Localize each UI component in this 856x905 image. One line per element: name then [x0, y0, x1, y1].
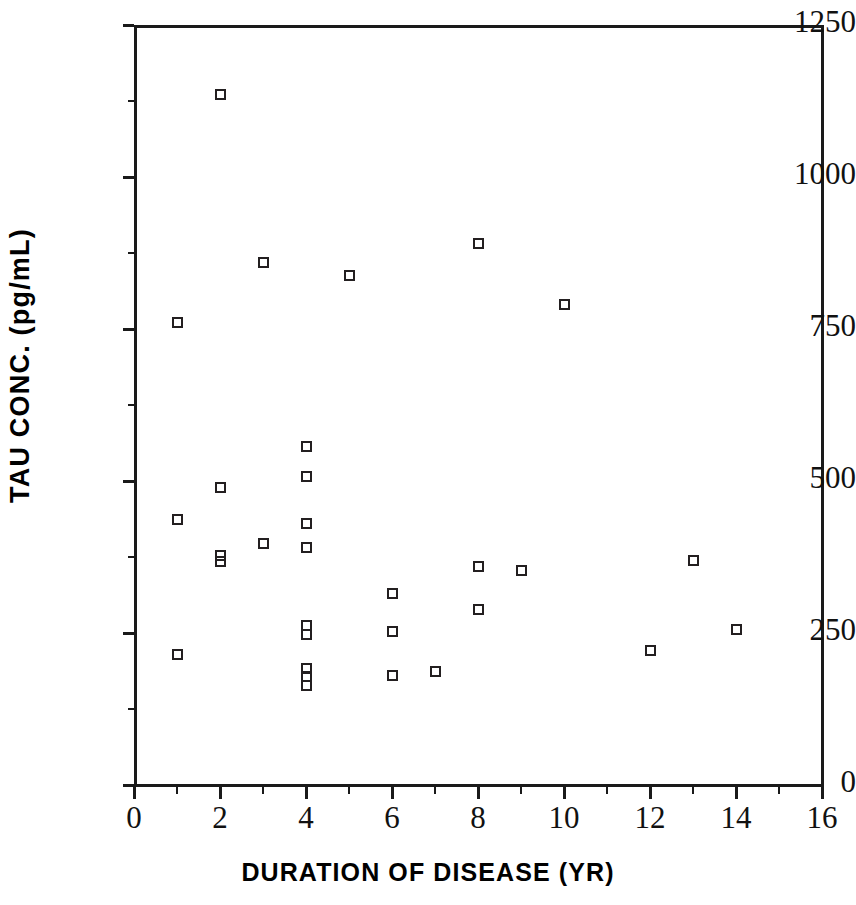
- x-tick-minor: [778, 787, 780, 794]
- y-tick-major: [123, 632, 134, 635]
- x-tick-major: [391, 787, 394, 799]
- y-axis-label: TAU CONC. (pg/mL): [5, 86, 36, 646]
- x-tick-major: [305, 787, 308, 799]
- data-point-marker: [258, 257, 269, 268]
- x-tick-label: 16: [792, 800, 852, 836]
- x-tick-major: [133, 787, 136, 799]
- plot-data-area: [134, 25, 822, 785]
- data-point-marker: [301, 680, 312, 691]
- y-tick-major: [123, 24, 134, 27]
- x-tick-minor: [348, 787, 350, 794]
- x-tick-label: 12: [620, 800, 680, 836]
- data-point-marker: [473, 561, 484, 572]
- data-point-marker: [215, 482, 226, 493]
- data-point-marker: [473, 238, 484, 249]
- data-point-marker: [301, 629, 312, 640]
- x-tick-major: [219, 787, 222, 799]
- data-point-marker: [215, 556, 226, 567]
- data-point-marker: [172, 514, 183, 525]
- data-point-marker: [645, 645, 656, 656]
- x-tick-major: [477, 787, 480, 799]
- data-point-marker: [172, 317, 183, 328]
- x-tick-minor: [434, 787, 436, 794]
- data-point-marker: [301, 471, 312, 482]
- y-tick-major: [123, 480, 134, 483]
- x-tick-label: 10: [534, 800, 594, 836]
- x-tick-label: 2: [190, 800, 250, 836]
- data-point-marker: [473, 604, 484, 615]
- y-tick-major: [123, 176, 134, 179]
- data-point-marker: [688, 555, 699, 566]
- data-point-marker: [387, 588, 398, 599]
- data-point-marker: [430, 666, 441, 677]
- data-point-marker: [258, 538, 269, 549]
- x-tick-major: [649, 787, 652, 799]
- x-tick-major: [563, 787, 566, 799]
- x-tick-minor: [176, 787, 178, 794]
- data-point-marker: [344, 270, 355, 281]
- x-tick-label: 14: [706, 800, 766, 836]
- x-tick-label: 0: [104, 800, 164, 836]
- x-axis-label: DURATION OF DISEASE (YR): [0, 858, 856, 887]
- x-tick-label: 8: [448, 800, 508, 836]
- data-point-marker: [516, 565, 527, 576]
- x-tick-label: 6: [362, 800, 422, 836]
- data-point-marker: [387, 670, 398, 681]
- x-tick-minor: [520, 787, 522, 794]
- data-point-marker: [172, 649, 183, 660]
- data-point-marker: [387, 626, 398, 637]
- x-tick-minor: [606, 787, 608, 794]
- x-tick-major: [821, 787, 824, 799]
- data-point-marker: [731, 624, 742, 635]
- data-point-marker: [215, 89, 226, 100]
- data-point-marker: [301, 542, 312, 553]
- data-point-marker: [301, 518, 312, 529]
- x-tick-minor: [692, 787, 694, 794]
- y-tick-major: [123, 328, 134, 331]
- data-point-marker: [559, 299, 570, 310]
- x-tick-major: [735, 787, 738, 799]
- scatter-plot-figure: 025050075010001250 0246810121416 TAU CON…: [0, 0, 856, 905]
- x-tick-minor: [262, 787, 264, 794]
- x-tick-label: 4: [276, 800, 336, 836]
- data-point-marker: [301, 441, 312, 452]
